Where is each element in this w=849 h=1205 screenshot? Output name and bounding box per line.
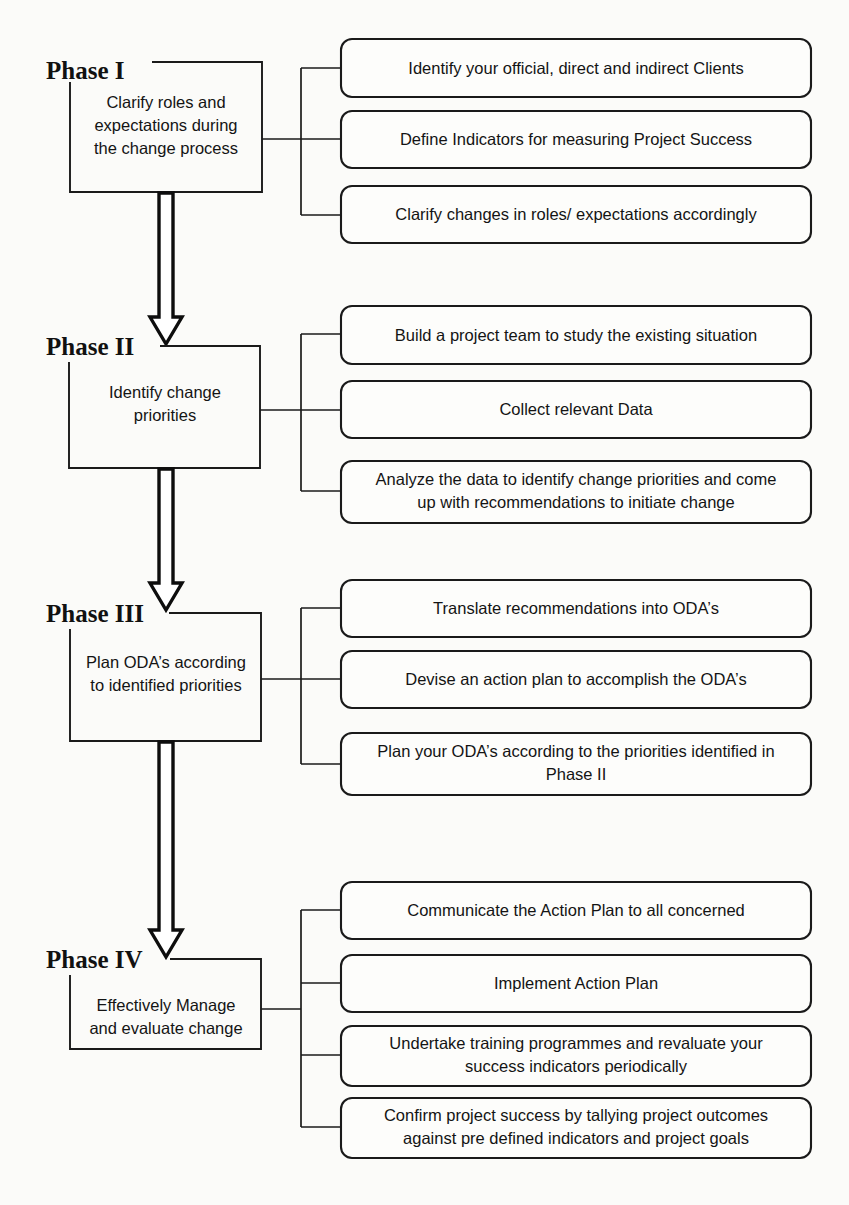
- task-label-4-3-line-1: Undertake training programmes and revalu…: [389, 1034, 763, 1052]
- task-label-4-2: Implement Action Plan: [494, 974, 658, 992]
- task-label-3-3-line-1: Plan your ODA’s according to the priorit…: [377, 742, 774, 760]
- connector-group-2: [260, 334, 341, 491]
- task-label-3-1: Translate recommendations into ODA’s: [433, 599, 719, 617]
- task-label-2-1: Build a project team to study the existi…: [395, 326, 757, 344]
- phase-description-1-line-2: expectations during: [94, 116, 237, 134]
- phase-description-1-line-3: the change process: [94, 139, 238, 157]
- connector-group-4: [261, 910, 341, 1127]
- task-label-1-3: Clarify changes in roles/ expectations a…: [395, 205, 757, 223]
- phase-label-1: Phase I: [46, 57, 124, 84]
- connector-group-3: [261, 608, 341, 764]
- phase-description-4-line-2: and evaluate change: [89, 1019, 242, 1037]
- task-label-4-1: Communicate the Action Plan to all conce…: [407, 901, 745, 919]
- phase-label-4: Phase IV: [46, 946, 143, 973]
- task-label-2-3-line-2: up with recommendations to initiate chan…: [417, 493, 734, 511]
- phase-description-3-line-2: to identified priorities: [90, 676, 241, 694]
- task-label-4-3-line-2: success indicators periodically: [465, 1057, 688, 1075]
- phase-description-2-line-1: Identify change: [109, 383, 221, 401]
- connector-group-1: [262, 68, 341, 215]
- task-label-4-4-line-2: against pre defined indicators and proje…: [403, 1129, 749, 1147]
- task-label-3-2: Devise an action plan to accomplish the …: [405, 670, 746, 688]
- task-label-2-2: Collect relevant Data: [499, 400, 653, 418]
- phase-description-3-line-1: Plan ODA’s according: [86, 653, 246, 671]
- phase-description-2-line-2: priorities: [134, 406, 196, 424]
- task-label-4-4-line-1: Confirm project success by tallying proj…: [384, 1106, 768, 1124]
- flow-arrow-1-to-2: [150, 193, 182, 344]
- phase-description-1-line-1: Clarify roles and: [106, 93, 225, 111]
- phase-description-4-line-1: Effectively Manage: [96, 996, 235, 1014]
- task-label-1-2: Define Indicators for measuring Project …: [400, 130, 752, 148]
- flow-arrow-2-to-3: [150, 469, 182, 610]
- task-label-2-3-line-1: Analyze the data to identify change prio…: [376, 470, 777, 488]
- phase-label-3: Phase III: [46, 600, 144, 627]
- task-label-1-1: Identify your official, direct and indir…: [408, 59, 743, 77]
- flow-arrow-3-to-4: [150, 742, 182, 957]
- task-label-3-3-line-2: Phase II: [546, 765, 607, 783]
- phase-label-2: Phase II: [46, 333, 134, 360]
- flowchart-canvas: Phase I Clarify roles and expectations d…: [0, 0, 849, 1205]
